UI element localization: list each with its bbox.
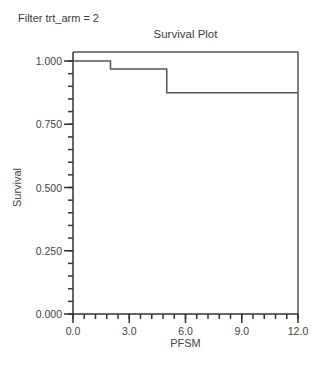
x-tick-label: 0.0	[66, 325, 81, 337]
x-tick-label: 3.0	[122, 325, 137, 337]
x-axis-label: PFSM	[170, 337, 201, 349]
y-tick-label: 1.000	[36, 55, 62, 67]
y-tick-label: 0.500	[36, 182, 62, 194]
y-tick-label: 0.000	[36, 308, 62, 320]
y-tick-label: 0.750	[36, 118, 62, 130]
plot-frame	[73, 52, 298, 314]
x-tick-label: 6.0	[178, 325, 193, 337]
x-tick-label: 12.0	[288, 325, 309, 337]
survival-chart: 0.0000.2500.5000.7501.0000.03.06.09.012.…	[0, 0, 322, 368]
x-tick-label: 9.0	[234, 325, 249, 337]
y-tick-label: 0.250	[36, 245, 62, 257]
survival-curve	[73, 61, 298, 93]
y-axis-label: Survival	[11, 168, 23, 207]
